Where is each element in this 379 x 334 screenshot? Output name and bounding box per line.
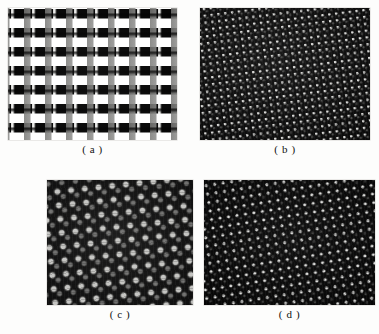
panel-a-vignette <box>8 8 177 140</box>
panel-image-a <box>8 8 177 140</box>
panel-image-b <box>200 8 370 140</box>
panel-image-c <box>47 180 193 305</box>
panel-caption-d: ( d ) <box>204 308 375 321</box>
panel-b-vignette <box>200 8 370 140</box>
panel-d-vignette <box>204 180 375 305</box>
panel-image-d <box>204 180 375 305</box>
panel-c-vignette <box>47 180 193 305</box>
panel-caption-a: ( a ) <box>8 143 177 156</box>
panel-caption-b: ( b ) <box>200 143 370 156</box>
panel-caption-c: ( c ) <box>47 308 193 321</box>
figure-root: ( a ) ( b ) ( c ) ( d ) <box>0 0 379 334</box>
